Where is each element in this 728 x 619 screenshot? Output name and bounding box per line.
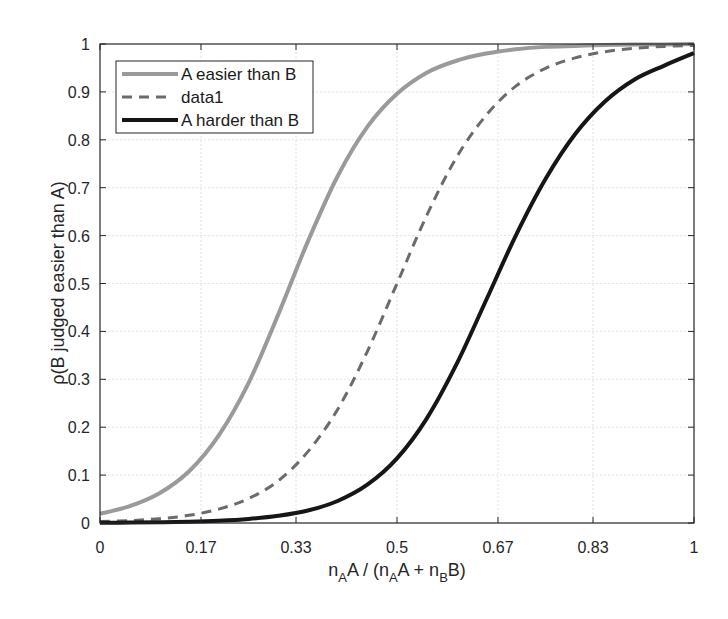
x-tick-label: 0.17	[185, 539, 216, 556]
y-tick-labels: 00.10.20.30.40.50.60.70.80.91	[68, 36, 90, 532]
y-tick-label: 0.3	[68, 371, 90, 388]
y-tick-label: 0	[81, 515, 90, 532]
x-tick-label: 1	[690, 539, 699, 556]
legend-label-harder: A harder than B	[181, 111, 299, 130]
y-axis-label: ρ(B judged easier than A)	[48, 181, 68, 384]
y-tick-label: 0.8	[68, 132, 90, 149]
chart: 00.170.330.50.670.831 00.10.20.30.40.50.…	[0, 0, 728, 619]
legend: A easier than B data1 A harder than B	[116, 61, 313, 133]
x-tick-label: 0.5	[386, 539, 408, 556]
y-tick-label: 1	[81, 36, 90, 53]
y-tick-label: 0.9	[68, 84, 90, 101]
y-tick-label: 0.4	[68, 323, 90, 340]
y-tick-label: 0.2	[68, 419, 90, 436]
y-tick-label: 0.6	[68, 228, 90, 245]
x-tick-label: 0.33	[280, 539, 311, 556]
x-tick-label: 0.83	[577, 539, 608, 556]
y-tick-label: 0.7	[68, 180, 90, 197]
x-tick-labels: 00.170.330.50.670.831	[96, 539, 699, 556]
y-tick-label: 0.1	[68, 467, 90, 484]
x-axis-label: nAA / (nAA + nBB)	[328, 560, 466, 585]
y-tick-label: 0.5	[68, 276, 90, 293]
x-tick-label: 0	[96, 539, 105, 556]
legend-label-data1: data1	[181, 88, 224, 107]
legend-label-easier: A easier than B	[181, 65, 296, 84]
x-tick-label: 0.67	[482, 539, 513, 556]
